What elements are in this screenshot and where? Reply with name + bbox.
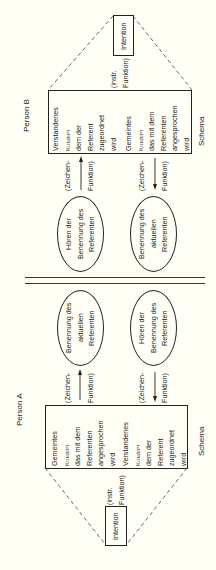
arrow-a-upper-up-icon	[78, 369, 82, 400]
person-a-sign-function-upper-l1: (Zeichen-	[62, 369, 74, 403]
instr-line2: Funktion)	[116, 471, 128, 505]
arrow-b-upper-up-icon	[79, 156, 83, 190]
person-b-sign-function-lower-l2: Funktion)	[159, 157, 171, 191]
person-a-concept-box: Gemeintes Konzept das mit dem Referenten…	[45, 405, 188, 469]
person-b-schema-label: Schema	[196, 110, 208, 146]
person-a-sign-function-lower-l1: (Zeichen-	[136, 369, 148, 403]
arrow-b-lower-down-icon	[153, 158, 157, 190]
person-b-naming-ellipse: Benennung des aktuellen Referenten	[130, 196, 177, 272]
person-a-instr-function: (instr. Funktion)	[104, 471, 127, 505]
person-b-label: Person B	[21, 94, 33, 132]
person-a-understood-concept: Verstandenes Konzept dem der Referent zu…	[120, 408, 190, 466]
arrow-a-lower-down-icon	[153, 372, 157, 402]
instr-line2: Funktion)	[120, 58, 132, 88]
person-a-label: Person A	[14, 390, 26, 426]
person-a-sign-function-upper-l2: Funktion)	[85, 369, 97, 403]
projection-line-a-left	[45, 468, 105, 544]
instr-line1: (instr.	[104, 471, 116, 505]
ellipse-text: Benennung des aktuellen Referenten	[63, 297, 98, 359]
divider-line-bottom	[25, 283, 205, 284]
person-b-concept-box: Verstandenes Konzept dem der Referent zu…	[48, 90, 192, 154]
ellipse-text: Hören der Benennung des Referenten	[136, 297, 171, 359]
person-b-sign-function-upper-l2: Funktion)	[85, 157, 97, 191]
projection-line-b-right	[133, 16, 192, 90]
person-b-sign-function-upper-l1: (Zeichen-	[62, 157, 74, 191]
person-a-sign-function-lower-l2: Funktion)	[159, 369, 171, 403]
divider-line-top	[25, 277, 205, 278]
person-a-schema-label: Schema	[196, 420, 208, 456]
projection-line-b-left	[48, 16, 113, 90]
person-b-intention-text: Intention	[118, 19, 130, 53]
person-b-sign-function-lower-l1: (Zeichen-	[136, 157, 148, 191]
person-a-intention-box: Intention	[105, 506, 127, 546]
person-b-understood-concept: Verstandenes Konzept dem der Referent zu…	[50, 93, 120, 151]
projection-line-a-right	[127, 468, 187, 544]
person-b-instr-function: (instr. Funktion)	[108, 58, 131, 88]
person-a-intended-concept: Gemeintes Konzept das mit dem Referenten…	[49, 408, 119, 466]
person-b-hearing-ellipse: Hören der Benennung des Referenten	[57, 196, 104, 272]
person-b-intention-box: Intention	[113, 15, 134, 56]
instr-line1: (instr.	[108, 58, 120, 88]
person-a-intention-text: Intention	[110, 510, 122, 543]
ellipse-text: Benennung des aktuellen Referenten	[136, 203, 171, 265]
person-b-intended-concept: Gemeintes Konzept das mit dem Referenten…	[123, 93, 193, 151]
person-a-naming-ellipse: Benennung des aktuellen Referenten	[57, 290, 104, 366]
person-a-hearing-ellipse: Hören der Benennung des Referenten	[130, 290, 177, 366]
ellipse-text: Hören der Benennung des Referenten	[63, 203, 98, 265]
